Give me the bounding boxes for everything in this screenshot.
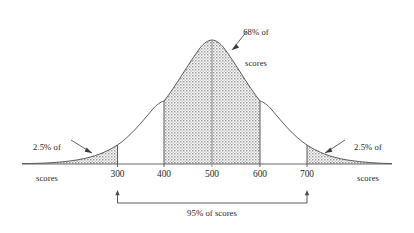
- annotation-left-tail-line1: 2.5% of: [17, 142, 77, 152]
- annotation-right-tail-line2: scores: [338, 173, 398, 183]
- axis-tick-label-400: 400: [144, 169, 184, 180]
- normal-distribution-figure: 68% of scores 2.5% of scores 2.5% of sco…: [0, 0, 414, 233]
- annotation-left-tail-2-5-percent: 2.5% of scores: [17, 122, 77, 204]
- bracket-label-95-percent: 95% of scores: [112, 208, 312, 219]
- axis-tick-label-600: 600: [240, 169, 280, 180]
- bracket-95-percent: [115, 190, 309, 203]
- annotation-center-line1: 68% of: [226, 27, 286, 37]
- axis-tick-label-700: 700: [287, 169, 327, 180]
- annotation-center-68-percent: 68% of scores: [226, 7, 286, 89]
- annotation-right-tail-line1: 2.5% of: [338, 142, 398, 152]
- annotation-right-tail-2-5-percent: 2.5% of scores: [338, 122, 398, 204]
- axis-tick-label-300: 300: [98, 169, 138, 180]
- axis-tick-label-500: 500: [192, 169, 232, 180]
- annotation-left-tail-line2: scores: [17, 173, 77, 183]
- annotation-center-line2: scores: [226, 58, 286, 68]
